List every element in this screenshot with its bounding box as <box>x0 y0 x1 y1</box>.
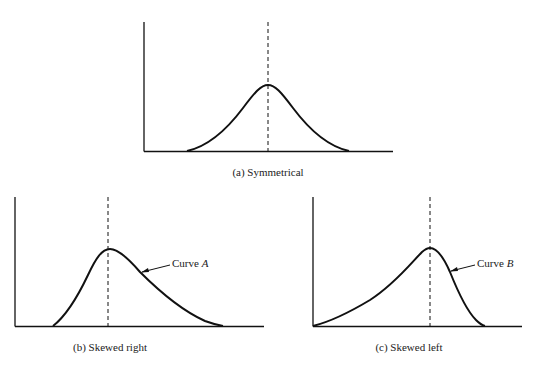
panel-a-symmetrical <box>144 22 393 152</box>
caption-c: (c) Skewed left <box>375 341 442 353</box>
curve-a-arrow <box>141 265 170 273</box>
curve-b-label: Curve B <box>477 257 513 269</box>
panel-b-skewed-right <box>15 197 264 327</box>
distribution-diagram <box>0 0 542 368</box>
caption-a: (a) Symmetrical <box>232 166 303 178</box>
curve-b <box>313 248 485 326</box>
curve-b-arrow <box>450 265 475 272</box>
curve-a-label: Curve A <box>172 257 208 269</box>
curve-b-label-letter: B <box>507 257 514 269</box>
curve-b-label-prefix: Curve <box>477 257 507 269</box>
caption-b: (b) Skewed right <box>73 341 147 353</box>
curve-a-label-letter: A <box>202 257 209 269</box>
curve-a-label-prefix: Curve <box>172 257 202 269</box>
